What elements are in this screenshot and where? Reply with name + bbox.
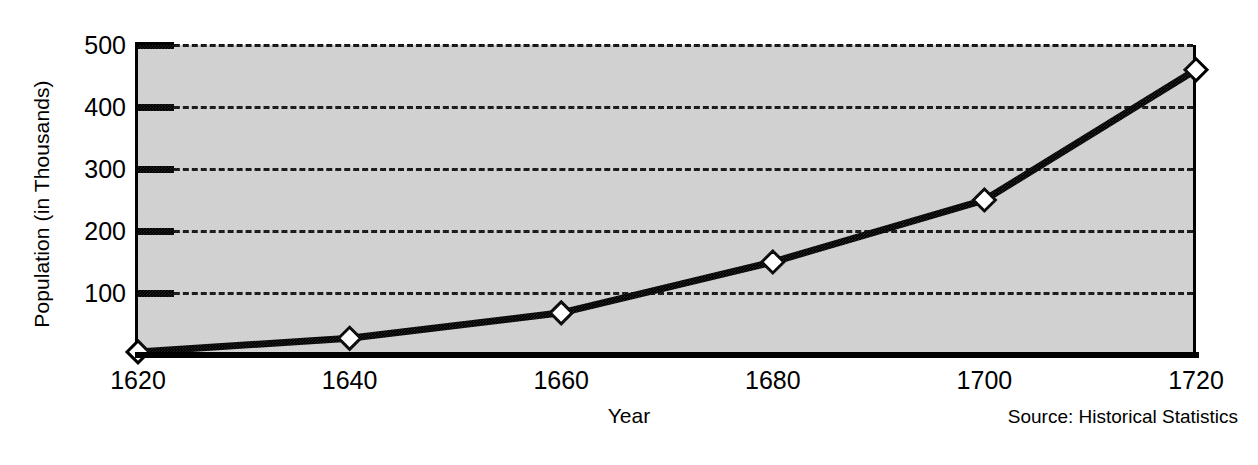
y-tick-label-300: 300 (84, 157, 126, 182)
x-tick-label-1720: 1720 (1168, 368, 1224, 393)
x-tick-label-1640: 1640 (322, 368, 378, 393)
x-tick-label-1660: 1660 (533, 368, 589, 393)
series-line-population (138, 70, 1196, 352)
source-annotation: Source: Historical Statistics (1008, 406, 1238, 428)
x-axis-spine (135, 352, 1199, 358)
data-series-population (138, 45, 1196, 355)
data-point-1640 (339, 327, 361, 349)
data-point-1660 (550, 302, 572, 324)
x-tick-label-1700: 1700 (957, 368, 1013, 393)
data-point-1680 (762, 251, 784, 273)
y-tick-label-400: 400 (84, 95, 126, 120)
plot-area (138, 45, 1196, 355)
y-axis-tick-labels: 100200300400500 (40, 0, 126, 465)
x-tick-label-1680: 1680 (745, 368, 801, 393)
y-tick-label-500: 500 (84, 33, 126, 58)
y-tick-label-200: 200 (84, 219, 126, 244)
y-tick-label-100: 100 (84, 281, 126, 306)
line-chart: Population (in Thousands) 10020030040050… (0, 0, 1258, 465)
x-tick-label-1620: 1620 (110, 368, 166, 393)
